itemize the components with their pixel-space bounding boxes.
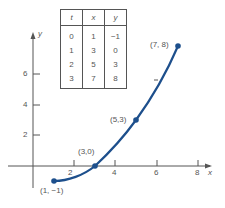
y-tick-label: 6 xyxy=(23,69,27,78)
x-axis-label: x xyxy=(208,168,212,177)
table-cell: 0 xyxy=(105,43,127,57)
point-label: (3,0) xyxy=(78,147,94,156)
point-label: (1, −1) xyxy=(40,186,63,195)
x-tick-label: 8 xyxy=(195,168,199,177)
x-tick-label: 6 xyxy=(154,168,158,177)
y-tick-label: 4 xyxy=(23,100,27,109)
table-header-y: y xyxy=(105,10,127,26)
point-label: (5,3) xyxy=(110,115,126,124)
table-cell: −1 xyxy=(105,26,127,44)
y-axis-arrow-icon xyxy=(31,32,36,39)
table-cell: 1 xyxy=(61,43,83,57)
table-cell: 3 xyxy=(61,71,83,89)
table-cell: 8 xyxy=(105,71,127,89)
table-header-x: x xyxy=(83,10,105,26)
table-cell: 3 xyxy=(105,57,127,71)
table-row: 0 1 −1 xyxy=(61,26,127,44)
y-axis-label: y xyxy=(38,29,42,38)
data-point xyxy=(133,117,139,123)
y-tick-label: 2 xyxy=(23,130,27,139)
table-row: 2 5 3 xyxy=(61,57,127,71)
x-tick-label: 2 xyxy=(68,168,72,177)
table-cell: 5 xyxy=(83,57,105,71)
table-row: 1 3 0 xyxy=(61,43,127,57)
table-cell: 1 xyxy=(83,26,105,44)
table-cell: 2 xyxy=(61,57,83,71)
values-table: t x y 0 1 −1 1 3 0 2 5 3 3 7 8 xyxy=(60,9,127,89)
table-cell: 3 xyxy=(83,43,105,57)
x-tick-label: 4 xyxy=(112,168,116,177)
table-header-t: t xyxy=(61,10,83,26)
data-point xyxy=(175,43,181,49)
table-cell: 7 xyxy=(83,71,105,89)
table-cell: 0 xyxy=(61,26,83,44)
data-point xyxy=(51,178,57,184)
data-point xyxy=(92,163,98,169)
table-row: 3 7 8 xyxy=(61,71,127,89)
point-label: (7, 8) xyxy=(150,40,169,49)
